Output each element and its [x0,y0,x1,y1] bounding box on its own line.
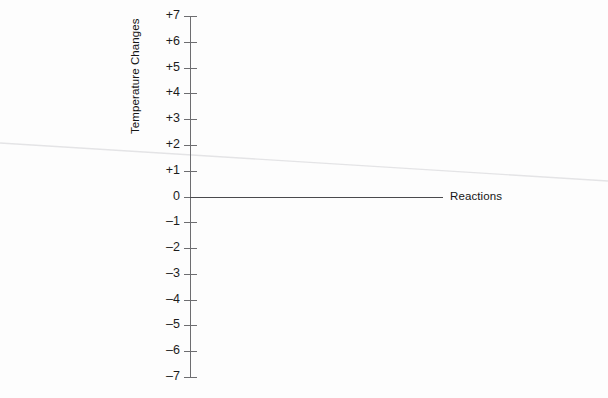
y-axis-tick [184,16,197,17]
y-axis-tick-label: +3 [140,111,180,125]
y-axis-tick-label: –5 [140,317,180,331]
y-axis-tick-label: +4 [140,85,180,99]
y-axis-tick [184,351,197,352]
y-axis-tick [184,325,197,326]
y-axis-tick [184,377,197,378]
y-axis-tick-label: +1 [140,163,180,177]
y-axis-tick-label: –7 [140,369,180,383]
y-axis-tick [184,248,197,249]
y-axis-tick-label: –3 [140,266,180,280]
y-axis-tick-label: 0 [140,189,180,203]
y-axis-tick [184,68,197,69]
chart-figure: +7+6+5+4+3+2+10–1–2–3–4–5–6–7 Temperatur… [0,0,608,398]
y-axis-tick [184,145,197,146]
y-axis-tick-label: +2 [140,137,180,151]
y-axis-tick-label: –6 [140,343,180,357]
y-axis-tick-label: –2 [140,240,180,254]
series-label-reactions: Reactions [450,190,502,202]
y-axis-tick [184,171,197,172]
y-axis-tick [184,300,197,301]
y-axis-tick [184,274,197,275]
y-axis-tick [184,119,197,120]
y-axis-tick-label: –1 [140,214,180,228]
series-line-reactions [190,197,443,198]
y-axis-tick [184,93,197,94]
y-axis-tick-label: +5 [140,60,180,74]
y-axis-tick [184,222,197,223]
y-axis-title: Temperature Changes [129,2,141,134]
scan-artifact-line [0,0,608,398]
y-axis-tick [184,42,197,43]
y-axis-tick-label: –4 [140,292,180,306]
y-axis-tick-label: +7 [140,8,180,22]
y-axis-tick-label: +6 [140,34,180,48]
